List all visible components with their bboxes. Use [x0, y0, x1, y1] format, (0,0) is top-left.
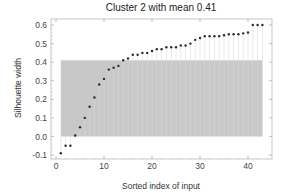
data-point [199, 37, 201, 39]
data-point [132, 54, 134, 56]
data-point [136, 54, 138, 56]
data-point [74, 134, 76, 136]
data-point [232, 33, 234, 35]
data-point [237, 33, 239, 35]
data-point [256, 24, 258, 26]
data-point [252, 24, 254, 26]
y-tick-label: -0.1 [32, 150, 47, 160]
x-tick-label: 0 [54, 161, 59, 171]
data-point [204, 35, 206, 37]
data-point [208, 35, 210, 37]
data-point [103, 78, 105, 80]
data-point [98, 83, 100, 85]
data-point [108, 68, 110, 70]
silhouette-chart: 010203040 -0.10.00.10.20.30.40.50.6 Clus… [0, 0, 287, 195]
y-tick-label: 0.5 [35, 39, 47, 49]
data-point [60, 152, 62, 154]
data-point [175, 46, 177, 48]
y-tick-label: 0.0 [35, 132, 47, 142]
data-point [160, 48, 162, 50]
y-tick-label: 0.2 [35, 94, 47, 104]
y-axis-label: Silhouette width [13, 58, 23, 118]
data-point [170, 46, 172, 48]
data-point [184, 44, 186, 46]
data-point [218, 35, 220, 37]
x-tick-label: 20 [147, 161, 157, 171]
data-point [242, 32, 244, 34]
data-point [84, 117, 86, 119]
data-point [79, 126, 81, 128]
data-point [165, 46, 167, 48]
x-tick-label: 30 [195, 161, 205, 171]
data-point [93, 96, 95, 98]
chart-title: Cluster 2 with mean 0.41 [106, 2, 217, 13]
data-point [247, 31, 249, 33]
data-point [213, 35, 215, 37]
x-axis-label: Sorted index of input [122, 181, 201, 191]
data-point [180, 44, 182, 46]
y-tick-label: 0.4 [35, 57, 47, 67]
data-point [122, 59, 124, 61]
data-point [69, 145, 71, 147]
data-point [194, 39, 196, 41]
y-tick-label: 0.1 [35, 113, 47, 123]
x-tick-label: 40 [243, 161, 253, 171]
data-point [228, 33, 230, 35]
x-tick-label: 10 [99, 161, 109, 171]
data-point [64, 145, 66, 147]
data-point [112, 67, 114, 69]
data-point [223, 34, 225, 36]
y-tick-label: 0.6 [35, 20, 47, 30]
data-point [88, 106, 90, 108]
data-point [146, 52, 148, 54]
data-point [141, 52, 143, 54]
data-point [261, 24, 263, 26]
y-tick-label: 0.3 [35, 76, 47, 86]
data-point [189, 42, 191, 44]
data-point [117, 65, 119, 67]
data-point [127, 57, 129, 59]
data-point [156, 48, 158, 50]
data-point [151, 50, 153, 52]
